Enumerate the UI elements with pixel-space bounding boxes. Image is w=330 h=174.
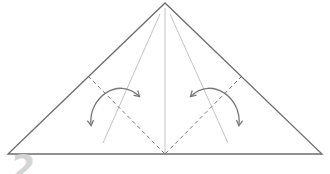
left-valley-fold-line — [88, 76, 165, 154]
right-crease-line — [170, 14, 228, 143]
step-number: 2 — [12, 150, 36, 174]
right-fold-unfold-arrow-icon — [191, 88, 239, 125]
origami-diagram — [0, 0, 330, 174]
left-crease-line — [103, 14, 160, 143]
left-fold-unfold-arrow-icon — [91, 88, 139, 125]
